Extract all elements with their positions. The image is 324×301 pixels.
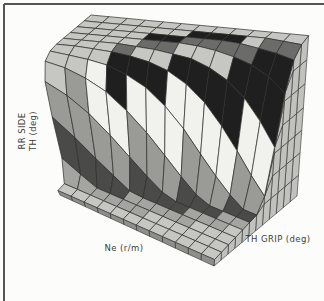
surface-mesh — [45, 15, 309, 266]
surface-plot-canvas: RR SIDE TH (deg) Ne (r/m) TH GRIP (deg) — [0, 0, 324, 301]
z-axis-label-line1: RR SIDE — [17, 112, 27, 149]
x-axis-label: Ne (r/m) — [105, 243, 144, 253]
z-axis-label-line2: TH (deg) — [28, 111, 38, 152]
scanned-figure-page: RR SIDE TH (deg) Ne (r/m) TH GRIP (deg) — [0, 0, 324, 301]
y-axis-label: TH GRIP (deg) — [245, 234, 311, 244]
